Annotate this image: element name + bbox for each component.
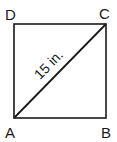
vertex-label-c: C [99,5,110,22]
square-diagram: D C A B 15 in. [0,0,117,142]
diagonal-length-label: 15 in. [31,47,66,83]
vertex-label-b: B [101,124,111,141]
vertex-label-a: A [5,124,15,141]
vertex-label-d: D [5,6,16,23]
diagonal-ac [14,24,106,118]
